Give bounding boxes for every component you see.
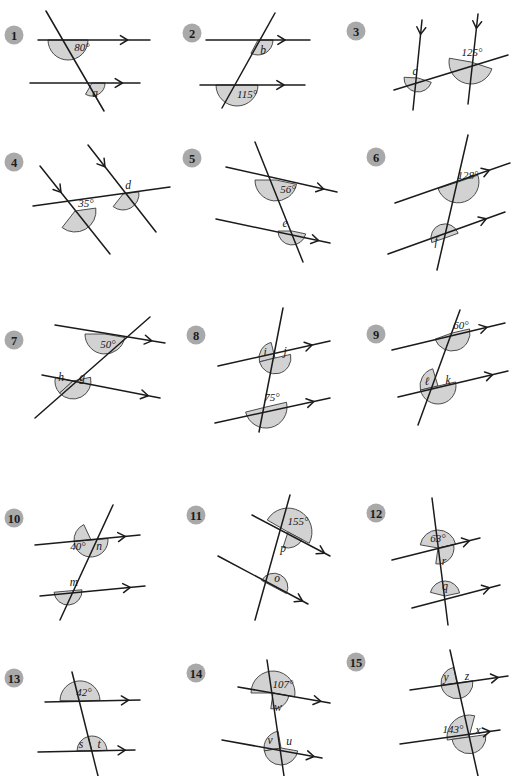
angle-n-label: n (96, 540, 102, 552)
problem-number-5: 5 (189, 152, 195, 166)
problem-number-15: 15 (350, 656, 363, 670)
angle-i-label: i (263, 346, 266, 358)
angle-s-label: s (79, 738, 84, 750)
angle-w-label: w (274, 701, 282, 713)
angle-40-sector (74, 525, 91, 542)
problem-number-2: 2 (189, 27, 195, 41)
angle-42-label: 42° (76, 686, 92, 698)
worksheet-canvas: 80°a1b115°2c125°335°d456°e5128°f650°hg7i… (0, 0, 515, 776)
problem-13: 42°st13 (5, 669, 141, 776)
problem-5: 56°e5 (183, 142, 338, 262)
transversal (60, 505, 113, 620)
problem-number-9: 9 (373, 328, 379, 342)
angle-d-label: d (125, 179, 131, 191)
problem-number-6: 6 (373, 151, 379, 165)
angle-x-label: x (474, 724, 481, 736)
angle-35-label: 35° (77, 197, 94, 209)
angle-l-label: ℓ (425, 375, 430, 387)
angle-50-label: 50° (100, 338, 116, 350)
angle-40-label: 40° (70, 540, 86, 552)
angle-155-label: 155° (288, 515, 310, 527)
angle-o-label: o (274, 572, 280, 584)
angle-z-label: z (464, 670, 470, 682)
transversal (255, 142, 303, 262)
problem-number-12: 12 (370, 507, 383, 521)
angle-q-label: q (442, 580, 448, 593)
angle-a-label: a (92, 87, 98, 99)
problem-number-10: 10 (8, 512, 21, 526)
angle-u-label: u (286, 735, 292, 747)
parallel-line-bottom (216, 219, 330, 243)
problem-11: 155°po11 (187, 495, 331, 620)
problem-12: 63°rq12 (367, 498, 501, 625)
angle-e-label: e (282, 217, 287, 229)
angle-128-label: 128° (458, 169, 480, 181)
angle-m-label: m (70, 576, 78, 588)
angle-v-label: v (267, 734, 273, 746)
problem-number-11: 11 (190, 509, 202, 523)
angle-56-label: 56° (280, 183, 296, 195)
angle-143-label: 143° (443, 723, 465, 735)
angle-p-label: p (279, 542, 286, 555)
transversal (450, 650, 478, 776)
problem-8: ij75°8 (187, 308, 331, 432)
angle-y-label: y (442, 671, 449, 684)
problem-number-7: 7 (11, 334, 17, 348)
problem-15: yz143°x15 (347, 650, 509, 776)
angle-80-label: 80° (74, 41, 90, 53)
problem-7: 50°hg7 (5, 317, 166, 418)
angle-35-sector (62, 208, 96, 232)
problem-number-4: 4 (11, 156, 18, 170)
angle-r-label: r (442, 555, 447, 567)
parallel-line-bottom (218, 556, 308, 604)
problem-number-1: 1 (11, 29, 17, 43)
angle-107-label: 107° (273, 678, 295, 690)
parallel-line-left (40, 166, 110, 254)
problem-number-3: 3 (353, 25, 359, 39)
problem-6: 128°f6 (367, 135, 511, 270)
problem-4: 35°d4 (5, 145, 171, 254)
parallel-line-bottom (388, 212, 505, 254)
worksheet-sheet: 80°a1b115°2c125°335°d456°e5128°f650°hg7i… (0, 0, 515, 776)
problem-3: c125°3 (347, 14, 509, 110)
problem-10: 40°nm10 (5, 505, 146, 620)
problem-2: b115°2 (183, 13, 311, 108)
angle-115-label: 115° (237, 88, 258, 100)
angle-b-label: b (260, 44, 266, 56)
angle-60-label: 60° (453, 319, 469, 331)
angle-125-label: 125° (462, 46, 484, 58)
problem-number-13: 13 (8, 672, 21, 686)
parallel-line-right (88, 145, 156, 232)
angle-63-label: 63° (430, 532, 446, 544)
angle-g-label: g (79, 371, 85, 384)
angle-c-label: c (412, 65, 417, 77)
transversal (35, 317, 150, 418)
problem-9: 60°ℓk9 (367, 310, 509, 425)
problem-1: 80°a1 (5, 11, 151, 111)
angle-75-label: 75° (264, 391, 280, 403)
problem-number-14: 14 (190, 667, 203, 681)
problem-number-8: 8 (193, 329, 199, 343)
parallel-line-bottom (38, 750, 135, 752)
angle-h-label: h (58, 371, 64, 383)
problem-14: 107°wvu14 (187, 660, 331, 776)
angle-k-label: k (445, 374, 451, 386)
